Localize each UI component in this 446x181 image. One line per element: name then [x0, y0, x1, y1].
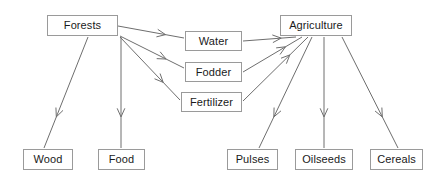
edge-line — [118, 26, 184, 38]
node-agriculture[interactable]: Agriculture — [280, 15, 352, 36]
arrowhead-icon — [277, 47, 286, 54]
node-oilseeds-label: Oilseeds — [302, 154, 346, 165]
node-wood[interactable]: Wood — [23, 149, 73, 170]
edge-forests-to-fertilizer — [120, 37, 180, 100]
edge-line — [44, 37, 88, 148]
edge-water-to-agriculture — [243, 35, 296, 42]
edge-line — [342, 37, 398, 148]
node-cereals[interactable]: Cereals — [370, 149, 423, 170]
edge-line — [259, 37, 312, 148]
edge-agriculture-to-cereals — [342, 37, 398, 148]
node-fertilizer-label: Fertilizer — [190, 97, 233, 108]
edge-line — [120, 36, 184, 68]
edge-line — [243, 37, 308, 101]
edge-line — [120, 37, 180, 100]
node-forests-label: Forests — [64, 20, 101, 31]
edge-agriculture-to-oilseeds — [320, 37, 327, 148]
node-oilseeds[interactable]: Oilseeds — [295, 149, 353, 170]
edge-forests-to-wood — [44, 37, 88, 148]
edge-agriculture-to-pulses — [259, 37, 312, 148]
node-pulses[interactable]: Pulses — [227, 149, 278, 170]
edge-forests-to-water — [118, 26, 184, 38]
edge-forests-to-food — [117, 37, 124, 148]
node-water-label: Water — [199, 36, 228, 47]
node-agriculture-label: Agriculture — [289, 20, 343, 31]
node-wood-label: Wood — [34, 154, 63, 165]
edge-fertilizer-to-agriculture — [243, 37, 308, 101]
node-fodder[interactable]: Fodder — [185, 62, 242, 82]
node-cereals-label: Cereals — [377, 154, 416, 165]
diagram-canvas: Forests Water Fodder Fertilizer Agricult… — [0, 0, 446, 181]
edge-line — [243, 37, 296, 41]
node-food[interactable]: Food — [98, 149, 145, 170]
edge-forests-to-fodder — [120, 36, 184, 68]
edge-fodder-to-agriculture — [243, 37, 302, 72]
node-forests[interactable]: Forests — [47, 15, 118, 36]
node-water[interactable]: Water — [185, 31, 242, 51]
node-pulses-label: Pulses — [236, 154, 270, 165]
node-fertilizer[interactable]: Fertilizer — [181, 92, 242, 112]
node-fodder-label: Fodder — [196, 67, 231, 78]
node-food-label: Food — [109, 154, 134, 165]
edge-line — [243, 37, 302, 72]
